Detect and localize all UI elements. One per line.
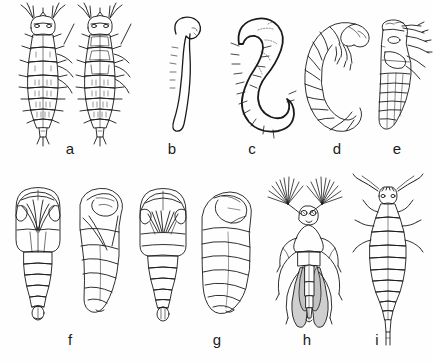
illustration-canvas bbox=[0, 0, 433, 362]
panel-label-c: c bbox=[240, 141, 264, 157]
panel-label-g: g bbox=[205, 332, 229, 348]
plate-background bbox=[0, 0, 433, 362]
panel-label-f: f bbox=[58, 332, 82, 348]
panel-label-i: i bbox=[365, 332, 389, 348]
figure-plate bbox=[0, 0, 433, 362]
panel-label-a: a bbox=[58, 141, 82, 157]
panel-label-d: d bbox=[325, 141, 349, 157]
panel-label-e: e bbox=[385, 141, 409, 157]
panel-label-b: b bbox=[160, 141, 184, 157]
panel-label-h: h bbox=[295, 332, 319, 348]
